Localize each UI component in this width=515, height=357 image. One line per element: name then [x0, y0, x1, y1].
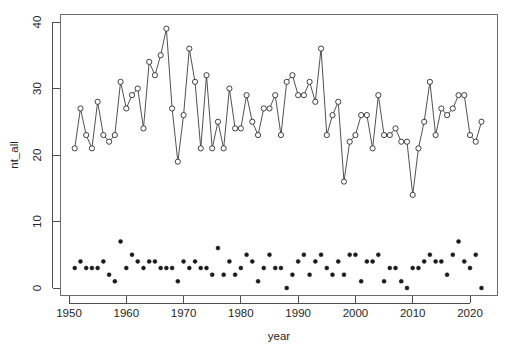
- data-point: [388, 266, 392, 270]
- data-point: [456, 93, 461, 98]
- data-point: [89, 146, 94, 151]
- data-point: [153, 259, 157, 263]
- data-point: [313, 259, 317, 263]
- data-point: [233, 273, 237, 277]
- data-point: [141, 266, 145, 270]
- data-point: [290, 73, 295, 78]
- data-point: [325, 266, 329, 270]
- data-point: [210, 146, 215, 151]
- data-point: [239, 266, 243, 270]
- data-point: [336, 259, 340, 263]
- data-point: [255, 132, 260, 137]
- data-point: [336, 99, 341, 104]
- data-point: [319, 253, 323, 257]
- data-point: [204, 266, 208, 270]
- data-point: [170, 266, 174, 270]
- data-point: [348, 253, 352, 257]
- data-point: [187, 46, 192, 51]
- data-point: [439, 259, 443, 263]
- data-point: [467, 132, 472, 137]
- data-point: [439, 106, 444, 111]
- data-point: [359, 279, 363, 283]
- data-point: [245, 253, 249, 257]
- data-point: [331, 273, 335, 277]
- data-point: [112, 132, 117, 137]
- data-point: [462, 93, 467, 98]
- data-point: [158, 53, 163, 58]
- data-point: [273, 266, 277, 270]
- data-point: [192, 79, 197, 84]
- x-tick-label: 1960: [113, 307, 139, 319]
- x-tick-label: 2000: [343, 307, 369, 319]
- data-point: [262, 266, 266, 270]
- data-point: [227, 259, 231, 263]
- data-point: [445, 273, 449, 277]
- data-point: [244, 93, 249, 98]
- data-point: [353, 253, 357, 257]
- data-point: [216, 246, 220, 250]
- data-point: [474, 253, 478, 257]
- data-point: [394, 266, 398, 270]
- data-point: [267, 106, 272, 111]
- data-point: [296, 259, 300, 263]
- plot-svg: 010203040 195019601970198019902000201020…: [0, 0, 515, 357]
- data-point: [136, 259, 140, 263]
- x-tick-label: 1980: [228, 307, 254, 319]
- x-tick-label: 2020: [457, 307, 483, 319]
- data-point: [451, 253, 455, 257]
- data-point: [279, 266, 283, 270]
- data-point: [404, 139, 409, 144]
- data-point: [284, 79, 289, 84]
- data-point: [113, 279, 117, 283]
- data-point: [193, 259, 197, 263]
- data-point: [479, 286, 483, 290]
- data-point: [457, 239, 461, 243]
- data-point: [308, 273, 312, 277]
- data-point: [416, 146, 421, 151]
- data-point: [330, 113, 335, 118]
- data-point: [256, 279, 260, 283]
- data-point: [238, 126, 243, 131]
- data-point: [101, 132, 106, 137]
- data-point: [187, 266, 191, 270]
- data-point: [141, 126, 146, 131]
- data-point: [433, 132, 438, 137]
- y-axis-title: nt_all: [8, 141, 20, 169]
- data-point: [84, 132, 89, 137]
- data-point: [473, 139, 478, 144]
- data-point: [118, 79, 123, 84]
- data-point: [107, 139, 112, 144]
- data-point: [164, 26, 169, 31]
- data-point: [159, 266, 163, 270]
- data-point: [342, 273, 346, 277]
- x-tick-label: 1970: [171, 307, 197, 319]
- data-point: [268, 253, 272, 257]
- data-point: [147, 259, 151, 263]
- data-point: [204, 73, 209, 78]
- data-point: [73, 266, 77, 270]
- data-point: [353, 132, 358, 137]
- data-point: [250, 259, 254, 263]
- chart-container: 010203040 195019601970198019902000201020…: [0, 0, 515, 357]
- data-point: [84, 266, 88, 270]
- x-tick-label: 2010: [400, 307, 426, 319]
- data-point: [278, 132, 283, 137]
- data-point: [359, 113, 364, 118]
- data-point: [273, 93, 278, 98]
- data-point: [250, 119, 255, 124]
- data-point: [170, 106, 175, 111]
- data-point: [371, 259, 375, 263]
- data-point: [387, 132, 392, 137]
- data-point: [96, 266, 100, 270]
- data-point: [198, 146, 203, 151]
- x-axis-ticks: 19501960197019801990200020102020: [56, 296, 483, 319]
- data-point: [381, 132, 386, 137]
- data-point: [261, 106, 266, 111]
- y-tick-label: 10: [31, 215, 43, 228]
- data-point: [233, 126, 238, 131]
- data-point: [181, 113, 186, 118]
- data-point: [95, 99, 100, 104]
- data-point: [462, 259, 466, 263]
- data-point: [364, 113, 369, 118]
- data-point: [365, 259, 369, 263]
